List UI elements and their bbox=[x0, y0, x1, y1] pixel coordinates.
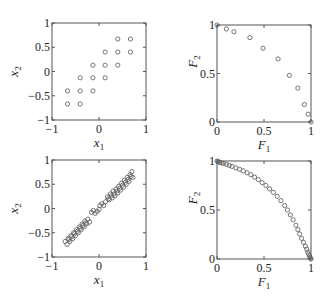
data-points bbox=[65, 37, 132, 106]
data-point-marker bbox=[275, 194, 279, 198]
y-tick-label: −1 bbox=[37, 113, 50, 127]
data-point-marker bbox=[91, 89, 95, 93]
y-tick-label: 1 bbox=[44, 16, 50, 30]
y-tick-label: 1 bbox=[44, 153, 50, 167]
data-point-marker bbox=[291, 218, 295, 222]
figure: −101−1−0.500.51x1x2 00.5100.51F1F2 −101−… bbox=[0, 0, 328, 299]
x-axis-label: F1 bbox=[257, 137, 270, 154]
data-point-marker bbox=[116, 37, 120, 41]
data-point-marker bbox=[298, 232, 302, 236]
data-point-marker bbox=[264, 183, 268, 187]
axes-box bbox=[217, 161, 311, 259]
y-axis-label: F2 bbox=[185, 55, 202, 68]
y-axis-label: x2 bbox=[6, 66, 23, 77]
y-tick-label: 0.5 bbox=[35, 40, 50, 54]
data-point-marker bbox=[279, 199, 283, 203]
x-tick-label: 0 bbox=[96, 259, 102, 273]
data-point-marker bbox=[256, 178, 260, 182]
data-points bbox=[63, 170, 135, 247]
data-point-marker bbox=[128, 37, 132, 41]
data-point-marker bbox=[294, 223, 298, 227]
data-point-marker bbox=[103, 50, 107, 54]
subplot-top-left: −101−1−0.500.51x1x2 bbox=[6, 16, 149, 152]
x-axis-label: F1 bbox=[257, 274, 270, 291]
data-point-marker bbox=[268, 187, 272, 191]
data-point-marker bbox=[128, 50, 132, 54]
data-point-marker bbox=[65, 102, 69, 106]
axes-box bbox=[217, 25, 311, 122]
y-tick-label: −0.5 bbox=[28, 226, 50, 240]
x-tick-label: 0.5 bbox=[257, 124, 272, 138]
data-point-marker bbox=[276, 57, 280, 61]
data-point-marker bbox=[306, 112, 310, 116]
y-axis-label: x2 bbox=[6, 203, 23, 214]
y-tick-label: 1 bbox=[209, 154, 215, 168]
data-point-marker bbox=[103, 63, 107, 67]
data-point-marker bbox=[91, 63, 95, 67]
x-tick-label: 1 bbox=[308, 261, 314, 275]
data-point-marker bbox=[296, 228, 300, 232]
subplot-bottom-right: 00.5100.51F1F2 bbox=[185, 154, 314, 291]
y-tick-label: 1 bbox=[209, 18, 215, 32]
x-tick-label: 1 bbox=[143, 122, 149, 136]
data-point-marker bbox=[296, 86, 300, 90]
y-tick-label: 0.5 bbox=[200, 203, 215, 217]
data-point-marker bbox=[261, 46, 265, 50]
x-tick-label: 1 bbox=[308, 124, 314, 138]
x-tick-label: 0 bbox=[96, 122, 102, 136]
data-point-marker bbox=[287, 73, 291, 77]
data-point-marker bbox=[271, 190, 275, 194]
data-point-marker bbox=[285, 208, 289, 212]
y-axis-label: F2 bbox=[185, 192, 202, 205]
data-point-marker bbox=[78, 76, 82, 80]
data-point-marker bbox=[116, 50, 120, 54]
data-point-marker bbox=[78, 89, 82, 93]
subplot-bottom-left: −101−1−0.500.51x1x2 bbox=[6, 153, 149, 289]
data-point-marker bbox=[103, 76, 107, 80]
data-points bbox=[215, 159, 313, 261]
y-tick-label: 0.5 bbox=[35, 177, 50, 191]
data-point-marker bbox=[283, 203, 287, 207]
y-tick-label: −0.5 bbox=[28, 89, 50, 103]
data-point-marker bbox=[224, 27, 228, 31]
y-tick-label: 0 bbox=[44, 202, 50, 216]
x-tick-label: 1 bbox=[143, 259, 149, 273]
y-tick-label: 0 bbox=[44, 65, 50, 79]
data-point-marker bbox=[91, 76, 95, 80]
data-point-marker bbox=[260, 180, 264, 184]
x-axis-label: x1 bbox=[93, 135, 104, 152]
data-point-marker bbox=[232, 30, 236, 34]
data-point-marker bbox=[302, 102, 306, 106]
y-tick-label: 0.5 bbox=[200, 67, 215, 81]
data-point-marker bbox=[288, 213, 292, 217]
x-tick-label: 0.5 bbox=[257, 261, 272, 275]
y-tick-label: 0 bbox=[209, 115, 215, 129]
data-point-marker bbox=[116, 63, 120, 67]
data-points bbox=[215, 23, 313, 124]
data-point-marker bbox=[65, 89, 69, 93]
subplot-top-right: 00.5100.51F1F2 bbox=[185, 18, 314, 154]
y-tick-label: −1 bbox=[37, 250, 50, 264]
data-point-marker bbox=[248, 36, 252, 40]
x-axis-label: x1 bbox=[93, 272, 104, 289]
data-point-marker bbox=[78, 102, 82, 106]
y-tick-label: 0 bbox=[209, 252, 215, 266]
